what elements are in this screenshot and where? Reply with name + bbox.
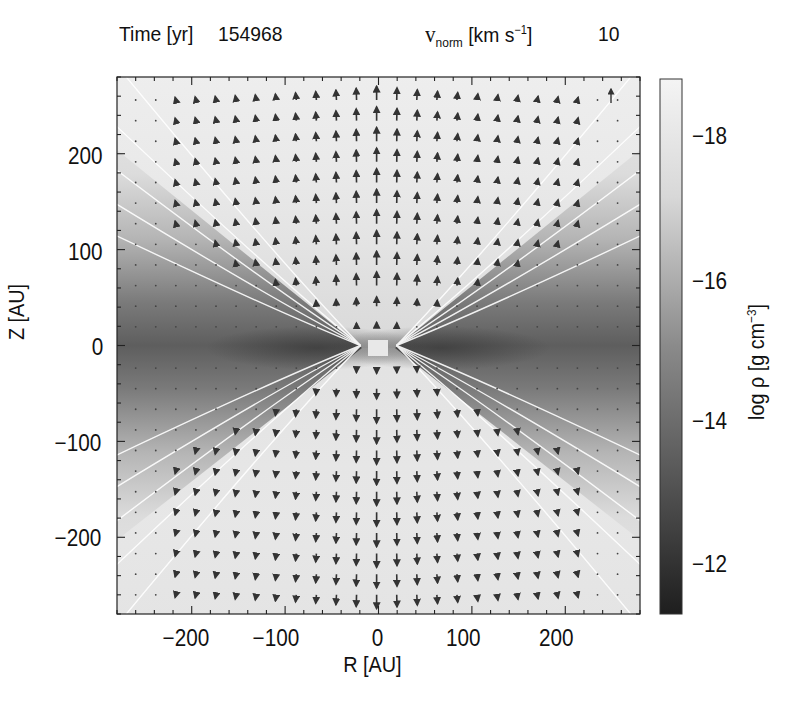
xtick-100: 100 xyxy=(446,625,481,652)
colorbar-title: log ρ [g cm−3] xyxy=(744,304,770,420)
xtick-neg100: −100 xyxy=(253,625,300,652)
x-axis-title: R [AU] xyxy=(343,652,401,678)
colorbar-tick-neg18: −18 xyxy=(692,123,727,150)
ytick-0: 0 xyxy=(92,334,104,361)
colorbar-tick-neg12: −12 xyxy=(692,551,727,578)
xtick-200: 200 xyxy=(539,625,574,652)
xtick-0: 0 xyxy=(372,625,384,652)
colorbar-tick-neg16: −16 xyxy=(692,268,727,295)
xtick-neg200: −200 xyxy=(163,625,210,652)
y-axis-title: Z [AU] xyxy=(4,284,30,340)
colorbar xyxy=(660,79,682,614)
density-velocity-plot xyxy=(0,0,794,710)
colorbar-tick-neg14: −14 xyxy=(692,408,727,435)
ytick-200: 200 xyxy=(68,143,103,170)
ytick-neg100: −100 xyxy=(55,430,102,457)
ytick-neg200: −200 xyxy=(55,525,102,552)
plot-area xyxy=(112,60,645,632)
ytick-100: 100 xyxy=(68,239,103,266)
